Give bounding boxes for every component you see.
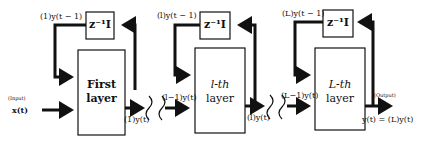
input-signal: x(t): [12, 106, 28, 114]
L-th-layer-line1: L-th: [315, 78, 365, 92]
feedback-label-1: (1)y(t − 1): [40, 13, 82, 21]
l-th-layer-line1: l-th: [195, 78, 245, 92]
first-layer-line1: First: [78, 78, 125, 92]
output-tag: (Output): [374, 93, 396, 98]
in-label-L: (L−1)y(t): [281, 92, 318, 100]
delay-label-1: z⁻¹I: [86, 19, 114, 30]
feedback-label-L: (L)y(t − 1): [282, 10, 324, 18]
L-th-layer-line2: layer: [315, 92, 365, 106]
out-label-1: (1)y(t): [124, 116, 149, 124]
delay-label-l: z⁻¹I: [200, 19, 230, 30]
output-signal: y(t) = (L)y(t): [362, 116, 413, 124]
out-label-l: (l)y(t): [247, 114, 270, 122]
L-th-layer-label: L-th layer: [315, 78, 365, 106]
feedback-label-l: (l)y(t − 1): [157, 12, 197, 20]
input-tag: (Input): [8, 96, 26, 101]
in-label-l: (l−1)y(t): [162, 94, 197, 102]
l-th-layer-label: l-th layer: [195, 78, 245, 106]
first-layer-line2: layer: [78, 92, 125, 106]
l-th-layer-line2: layer: [195, 92, 245, 106]
delay-label-L: z⁻¹I: [323, 17, 353, 28]
first-layer-label: First layer: [78, 78, 125, 106]
